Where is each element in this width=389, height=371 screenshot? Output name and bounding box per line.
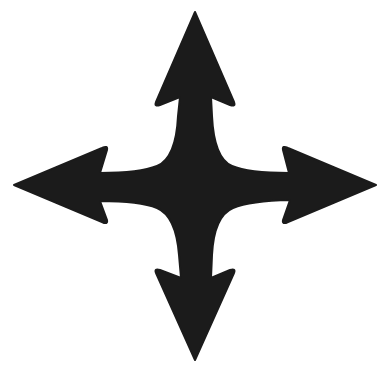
four-way-arrows-shape — [14, 12, 376, 360]
four-way-arrows-icon — [0, 0, 389, 371]
canvas — [0, 0, 389, 371]
